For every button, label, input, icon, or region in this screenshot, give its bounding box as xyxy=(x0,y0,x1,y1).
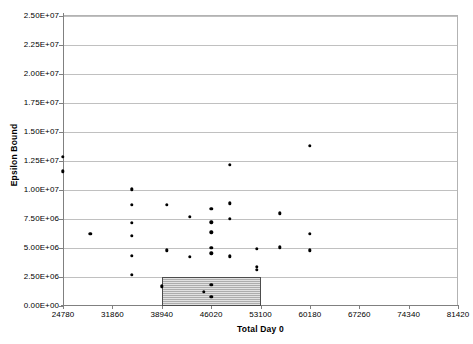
x-tick-label: 60180 xyxy=(299,310,322,319)
data-point xyxy=(130,254,133,257)
data-point xyxy=(209,252,212,255)
y-tick-label: 2.25E+07 xyxy=(24,40,59,49)
data-point xyxy=(130,221,133,224)
data-point xyxy=(130,273,133,276)
data-point xyxy=(308,144,311,147)
data-point xyxy=(209,207,212,210)
data-point xyxy=(130,203,133,206)
data-point xyxy=(228,254,231,257)
data-point xyxy=(255,247,258,250)
gridline xyxy=(63,45,457,46)
gridline xyxy=(63,74,457,75)
gridline xyxy=(63,190,457,191)
data-point xyxy=(308,249,311,252)
gridline xyxy=(63,161,457,162)
gridline xyxy=(63,219,457,220)
y-tick-label: 1.50E+07 xyxy=(24,127,59,136)
y-tick-label: 7.50E+06 xyxy=(24,214,59,223)
y-axis-line xyxy=(63,13,64,307)
data-point xyxy=(255,268,258,271)
data-point xyxy=(188,215,191,218)
y-tick-label: 2.50E+07 xyxy=(24,11,59,20)
x-axis-title: Total Day 0 xyxy=(63,324,458,334)
x-tick-label: 24780 xyxy=(52,310,75,319)
y-tick-label: 1.75E+07 xyxy=(24,98,59,107)
y-tick-label: 2.50E+06 xyxy=(24,272,59,281)
data-point xyxy=(209,246,212,249)
x-tick-label: 53100 xyxy=(249,310,272,319)
data-point xyxy=(308,232,311,235)
x-tick-label: 46020 xyxy=(200,310,223,319)
gridline xyxy=(63,103,457,104)
x-tick-label: 38940 xyxy=(150,310,173,319)
data-point xyxy=(61,170,64,173)
data-point xyxy=(165,249,168,252)
data-point xyxy=(228,202,231,205)
y-tick-label: 5.00E+06 xyxy=(24,243,59,252)
plot-area xyxy=(63,15,458,305)
y-tick-label: 0.00E+00 xyxy=(24,301,59,310)
data-point xyxy=(209,231,212,234)
x-tick-mark xyxy=(310,305,311,309)
y-axis-title: Epsilon Bound xyxy=(9,110,19,200)
data-point xyxy=(209,221,212,224)
x-tick-mark xyxy=(359,305,360,309)
data-point xyxy=(130,234,133,237)
y-tick-label: 1.25E+07 xyxy=(24,156,59,165)
data-point xyxy=(61,155,64,158)
scatter-chart: 0.00E+002.50E+065.00E+067.50E+061.00E+07… xyxy=(0,0,473,344)
data-point xyxy=(228,163,231,166)
data-point xyxy=(89,232,92,235)
y-tick-label: 1.00E+07 xyxy=(24,185,59,194)
data-point xyxy=(165,203,168,206)
gridline xyxy=(63,248,457,249)
gridline xyxy=(63,16,457,17)
x-tick-label: 81420 xyxy=(447,310,470,319)
x-tick-mark xyxy=(261,305,262,309)
x-tick-mark xyxy=(112,305,113,309)
data-point xyxy=(188,255,191,258)
data-point xyxy=(228,217,231,220)
gridline xyxy=(63,132,457,133)
x-tick-label: 74340 xyxy=(397,310,420,319)
data-point xyxy=(278,211,281,214)
x-tick-mark xyxy=(63,305,64,309)
highlight-region-box xyxy=(162,277,261,306)
x-tick-label: 31860 xyxy=(101,310,124,319)
y-tick-label: 2.00E+07 xyxy=(24,69,59,78)
x-tick-mark xyxy=(458,305,459,309)
x-tick-mark xyxy=(409,305,410,309)
x-tick-label: 67260 xyxy=(348,310,371,319)
